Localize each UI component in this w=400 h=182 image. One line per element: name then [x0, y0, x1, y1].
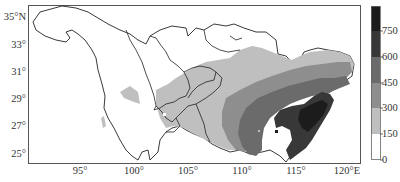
- y-tick-35: 35°N: [0, 12, 26, 23]
- x-tick-110: 110°: [232, 166, 252, 177]
- colorbar-tick-450: 450: [382, 78, 398, 89]
- x-tick-115: 115°: [286, 166, 306, 177]
- y-tick-31: 31°: [0, 67, 26, 78]
- map-canvas: [0, 0, 400, 182]
- colorbar-tick-150: 150: [382, 129, 398, 140]
- y-tick-29: 29°: [0, 94, 26, 105]
- light-spot: [258, 130, 260, 132]
- colorbar-tick-750: 750: [382, 26, 398, 37]
- colorbar-tick-300: 300: [382, 103, 398, 114]
- x-tick-95: 95°: [73, 166, 88, 177]
- y-tick-25: 25°: [0, 149, 26, 160]
- x-tick-100: 100°: [124, 166, 144, 177]
- colorbar-tick-0: 0: [382, 155, 387, 166]
- dark-spot: [275, 130, 278, 133]
- y-tick-27: 27°: [0, 121, 26, 132]
- white-spot: [163, 113, 166, 116]
- x-tick-105: 105°: [178, 166, 198, 177]
- colorbar-tick-600: 600: [382, 52, 398, 63]
- x-tick-120: 120°E: [334, 166, 360, 177]
- map-figure: 35°N 33° 31° 29° 27° 25° 95° 100° 105° 1…: [0, 0, 400, 182]
- y-tick-33: 33°: [0, 40, 26, 51]
